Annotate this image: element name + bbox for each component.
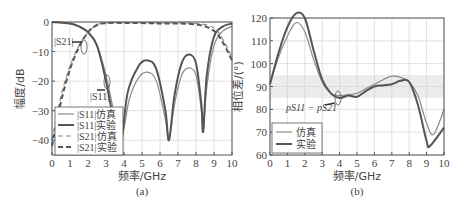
legend-label: |S21|仿真: [77, 130, 117, 142]
legend-label: 实验: [296, 138, 316, 150]
x-tick-label: 9: [211, 157, 217, 169]
x-tick-label: 4: [337, 157, 343, 169]
x-tick-label: 2: [85, 157, 91, 169]
y-tick-label: 80: [256, 103, 268, 115]
x-tick-label: 1: [285, 157, 291, 169]
y-tick-label: −20: [32, 75, 50, 87]
legend-b: 仿真实验: [272, 123, 322, 153]
figure: 0123456789100−10−20−30−40频率/GHz(a)幅度/dB|…: [0, 0, 466, 204]
legend-a: |S11|仿真|S11|实验|S21|仿真|S21|实验: [55, 107, 123, 155]
legend-label: |S11|实验: [77, 119, 116, 131]
y-tick-label: 120: [251, 12, 268, 24]
x-tick-label: 0: [49, 157, 55, 169]
x-tick-label: 8: [193, 157, 199, 169]
x-tick-label: 4: [121, 157, 127, 169]
panel-caption: (a): [136, 185, 149, 198]
x-tick-label: 7: [175, 157, 181, 169]
y-tick-label: 0: [44, 16, 50, 28]
x-tick-label: 8: [406, 157, 412, 169]
y-tick-label: −10: [32, 46, 50, 58]
y-tick-label: 100: [251, 58, 268, 70]
y-tick-label: −30: [32, 105, 50, 117]
chart-panel-a: 0123456789100−10−20−30−40频率/GHz(a)幅度/dB|…: [13, 16, 238, 198]
x-tick-label: 7: [389, 157, 395, 169]
legend-label: |S11|仿真: [77, 108, 116, 120]
x-tick-label: 1: [67, 157, 73, 169]
x-tick-label: 10: [439, 157, 451, 169]
x-tick-label: 3: [103, 157, 109, 169]
x-tick-label: 6: [157, 157, 163, 169]
panel-caption: (b): [351, 185, 364, 198]
x-tick-label: 3: [319, 157, 325, 169]
legend-label: |S21|实验: [77, 141, 117, 153]
x-axis-label: 频率/GHz: [333, 169, 382, 183]
y-tick-label: 90: [256, 81, 268, 93]
chart-panel-b: 01234567891012011010090807060频率/GHz(b)相位…: [231, 12, 450, 198]
x-tick-label: 2: [302, 157, 308, 169]
x-tick-label: 6: [372, 157, 378, 169]
y-axis-label: 相位差/(°): [231, 61, 245, 112]
x-tick-label: 5: [354, 157, 360, 169]
annotation-s21: |S21|: [54, 36, 74, 47]
y-tick-label: −40: [32, 134, 50, 146]
y-tick-label: 110: [251, 35, 268, 47]
y-axis-label: 幅度/dB: [13, 68, 27, 108]
x-tick-label: 0: [267, 157, 273, 169]
x-tick-label: 10: [227, 157, 239, 169]
x-tick-label: 9: [424, 157, 430, 169]
annotation-s11: |S11|: [90, 91, 109, 102]
y-tick-label: 60: [256, 149, 268, 161]
x-axis-label: 频率/GHz: [118, 169, 167, 183]
x-tick-label: 5: [139, 157, 145, 169]
y-tick-label: 70: [256, 126, 268, 138]
legend-label: 仿真: [296, 126, 316, 138]
